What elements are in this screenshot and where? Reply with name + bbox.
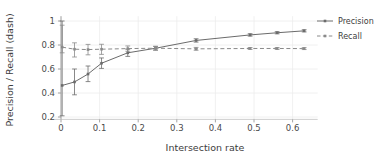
legend-item-precision[interactable]: Precision	[317, 17, 374, 26]
x-tick-label: 0.2	[131, 123, 145, 133]
x-tick-label: 0	[58, 123, 63, 133]
data-point-marker	[303, 47, 306, 50]
x-tick-label: 0.4	[209, 123, 223, 133]
data-point-marker	[276, 31, 279, 34]
x-axis-title: Intersection rate	[166, 142, 245, 153]
chart-legend: PrecisionRecall	[317, 17, 374, 41]
data-point-marker	[249, 34, 252, 37]
x-tick-label: 0.6	[286, 123, 300, 133]
data-series	[60, 21, 307, 116]
data-point-marker	[61, 84, 64, 87]
y-tick-labels: 0.20.40.60.81	[41, 16, 55, 122]
precision-recall-plot: 00.10.20.30.40.50.6 0.20.40.60.81 Precis…	[0, 0, 387, 163]
series-recall	[60, 25, 307, 57]
y-tick-label: 0.6	[41, 64, 55, 74]
data-point-marker	[61, 46, 64, 49]
series-line	[62, 47, 304, 49]
x-tick-label: 0.3	[170, 123, 184, 133]
data-point-marker	[73, 81, 76, 84]
data-point-marker	[303, 30, 306, 33]
x-tick-label: 0.1	[93, 123, 107, 133]
data-point-marker	[100, 48, 103, 51]
y-tick-label: 0.8	[41, 40, 55, 50]
y-tick-label: 0.4	[41, 88, 55, 98]
chart-container: 00.10.20.30.40.50.6 0.20.40.60.81 Precis…	[0, 0, 387, 163]
series-line	[62, 31, 304, 86]
series-precision	[60, 21, 307, 116]
x-tick-label: 0.5	[247, 123, 261, 133]
data-point-marker	[195, 39, 198, 42]
x-tick-labels: 00.10.20.30.40.50.6	[58, 123, 299, 133]
data-point-marker	[87, 73, 90, 76]
y-tick-label: 1	[50, 16, 55, 26]
legend-marker	[324, 35, 327, 38]
data-point-marker	[73, 48, 76, 51]
data-point-marker	[126, 52, 129, 55]
legend-marker	[324, 20, 327, 23]
legend-label: Recall	[338, 32, 362, 41]
data-point-marker	[87, 48, 90, 51]
y-axis-title: Precision / Recall (dash)	[4, 13, 15, 126]
legend-label: Precision	[338, 17, 374, 26]
data-point-marker	[126, 47, 129, 50]
legend-item-recall[interactable]: Recall	[317, 32, 362, 41]
y-tick-label: 0.2	[41, 112, 55, 122]
data-point-marker	[195, 48, 198, 51]
data-point-marker	[154, 47, 157, 50]
data-point-marker	[249, 47, 252, 50]
data-point-marker	[276, 47, 279, 50]
data-point-marker	[100, 62, 103, 65]
